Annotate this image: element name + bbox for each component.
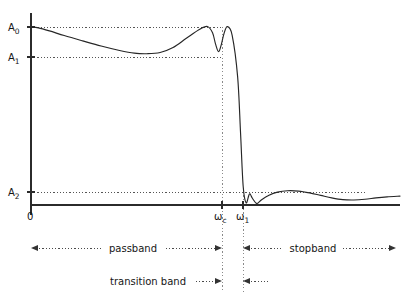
passband-annotation: passband [31,243,222,254]
transition-band-label: transition band [110,276,186,287]
level-lines-group [31,27,365,192]
transition-arrow-left [243,278,250,284]
stopband-label: stopband [290,243,337,254]
axes-group [27,13,400,215]
y-label-A1: A1 [8,52,20,66]
frequency-guide-lines-group [222,27,243,292]
magnitude-response-curve [31,26,400,203]
transition-band-annotation: transition band [110,276,268,287]
stopband-arrow-right [389,245,396,251]
passband-label: passband [109,243,157,254]
x-label-wc: ωc [214,211,227,225]
stopband-annotation: stopband [243,243,396,254]
y-label-A0: A0 [8,22,20,36]
transition-arrow-right [215,278,222,284]
y-label-A2: A2 [8,187,20,201]
filter-response-chart: A0 A1 A2 0 ωc ω1 passband [0,0,402,299]
passband-arrow-right [215,245,222,251]
filter-response-figure: A0 A1 A2 0 ωc ω1 passband [0,0,402,299]
stopband-arrow-left [243,245,250,251]
x-label-w1: ω1 [236,211,249,225]
passband-arrow-left [31,245,38,251]
origin-label: 0 [27,211,33,222]
